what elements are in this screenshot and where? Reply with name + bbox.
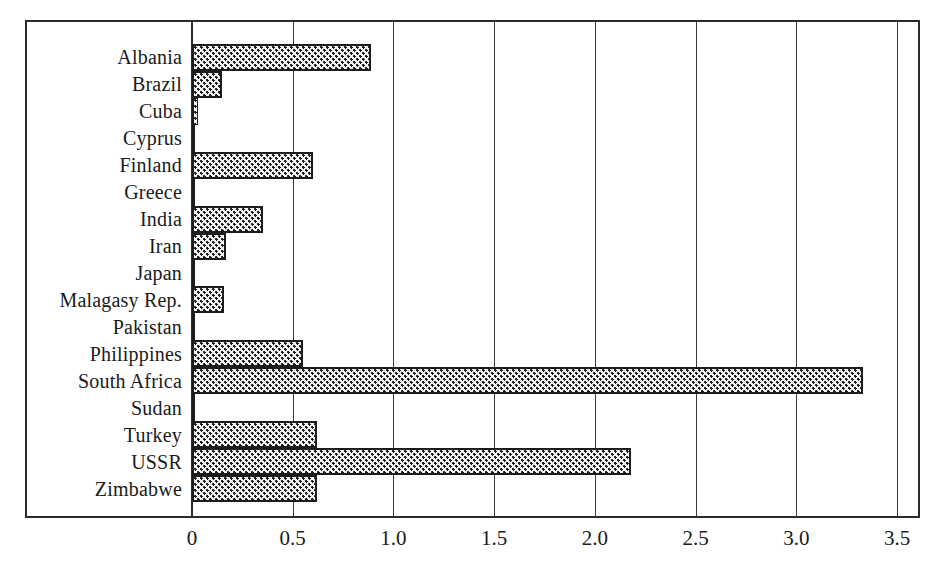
category-label-philippines: Philippines <box>90 344 182 364</box>
category-label-japan: Japan <box>135 263 182 283</box>
bar-zimbabwe <box>192 475 317 502</box>
bar-chart: AlbaniaBrazilCubaCyprusFinlandGreeceIndi… <box>0 0 943 573</box>
category-label-finland: Finland <box>119 155 182 175</box>
bar-iran <box>192 233 226 260</box>
bar-south-africa <box>192 367 863 394</box>
category-label-south-africa: South Africa <box>78 371 182 391</box>
bar-greece <box>192 179 195 206</box>
bar-japan <box>192 260 195 287</box>
x-tick-label-2.0: 2.0 <box>582 528 608 549</box>
category-label-greece: Greece <box>124 182 182 202</box>
category-label-zimbabwe: Zimbabwe <box>95 479 182 499</box>
category-label-brazil: Brazil <box>132 74 182 94</box>
bar-philippines <box>192 340 303 367</box>
x-tick-label-1.5: 1.5 <box>481 528 507 549</box>
category-label-cuba: Cuba <box>139 101 182 121</box>
category-label-sudan: Sudan <box>131 398 182 418</box>
category-label-malagasy-rep: Malagasy Rep. <box>59 290 182 310</box>
bar-ussr <box>192 448 631 475</box>
category-label-india: India <box>140 209 182 229</box>
bar-india <box>192 206 263 233</box>
category-label-iran: Iran <box>149 236 182 256</box>
bar-finland <box>192 152 313 179</box>
bar-albania <box>192 44 371 71</box>
x-tick-label-2.5: 2.5 <box>682 528 708 549</box>
bar-pakistan <box>192 313 195 340</box>
bar-cyprus <box>192 125 195 152</box>
x-tick-label-3.5: 3.5 <box>884 528 910 549</box>
category-label-pakistan: Pakistan <box>113 317 182 337</box>
bar-cuba <box>192 98 198 125</box>
bar-brazil <box>192 71 222 98</box>
bar-malagasy-rep <box>192 286 224 313</box>
bar-turkey <box>192 421 317 448</box>
category-label-albania: Albania <box>117 47 182 67</box>
x-tick-label-0.5: 0.5 <box>280 528 306 549</box>
x-tick-label-3.0: 3.0 <box>783 528 809 549</box>
category-axis-labels: AlbaniaBrazilCubaCyprusFinlandGreeceIndi… <box>0 20 190 518</box>
category-label-turkey: Turkey <box>124 425 182 445</box>
x-tick-label-1.0: 1.0 <box>380 528 406 549</box>
x-tick-label-0: 0 <box>187 528 198 549</box>
category-label-ussr: USSR <box>131 452 182 472</box>
bar-sudan <box>192 394 195 421</box>
category-label-cyprus: Cyprus <box>123 128 182 148</box>
x-axis-tick-labels: 00.51.01.52.02.53.03.5 <box>25 518 920 563</box>
